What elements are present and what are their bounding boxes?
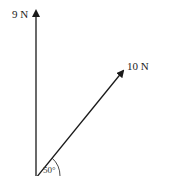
force-diagram — [0, 0, 171, 176]
vertical-force-label: 9 N — [12, 8, 28, 20]
diagonal-force-arrow — [36, 71, 123, 176]
diagonal-force-label: 10 N — [127, 60, 149, 72]
angle-label: 50° — [43, 165, 56, 175]
